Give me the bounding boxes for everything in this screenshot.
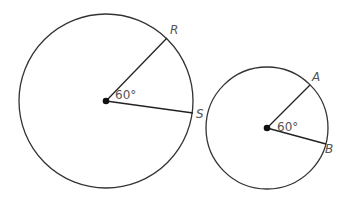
small-circle-group: 60° A B xyxy=(206,67,333,189)
small-center-point xyxy=(264,125,271,132)
radius-s xyxy=(106,101,193,113)
point-label-b: B xyxy=(325,142,333,156)
small-angle-label: 60° xyxy=(277,120,298,134)
large-angle-label: 60° xyxy=(115,88,136,102)
large-center-point xyxy=(103,98,110,105)
point-label-a: A xyxy=(311,70,320,84)
point-label-s: S xyxy=(196,107,204,121)
large-circle-group: 60° R S xyxy=(19,14,204,188)
diagram-canvas: 60° R S 60° A B xyxy=(0,0,351,205)
point-label-r: R xyxy=(170,23,178,37)
